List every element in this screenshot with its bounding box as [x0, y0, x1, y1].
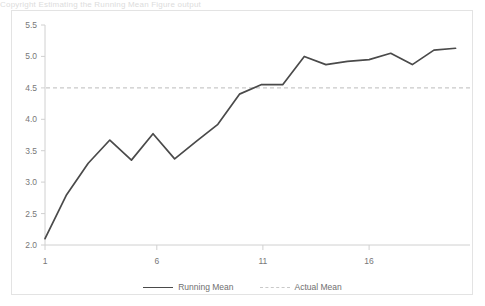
y-tick-label: 2.0 — [15, 240, 37, 250]
cropped-header-text: Copyright Estimating the Running Mean Fi… — [0, 0, 485, 9]
chart-frame — [11, 10, 473, 295]
y-tick-label: 2.5 — [15, 209, 37, 219]
y-tick-label: 3.5 — [15, 146, 37, 156]
legend-entry-actual-mean[interactable]: Actual Mean — [260, 282, 342, 292]
x-tick-label: 6 — [145, 256, 169, 266]
running-mean-swatch-icon — [143, 287, 173, 288]
legend-label-actual-mean: Actual Mean — [295, 282, 342, 292]
y-tick-label: 3.0 — [15, 177, 37, 187]
legend-label-running-mean: Running Mean — [178, 282, 233, 292]
y-tick-label: 4.0 — [15, 114, 37, 124]
x-tick-label: 16 — [357, 256, 381, 266]
y-tick-label: 5.0 — [15, 51, 37, 61]
chart-legend: Running Mean Actual Mean — [0, 278, 485, 296]
y-tick-label: 4.5 — [15, 83, 37, 93]
actual-mean-swatch-icon — [260, 287, 290, 288]
x-tick-label: 11 — [251, 256, 275, 266]
y-tick-label: 5.5 — [15, 20, 37, 30]
legend-entry-running-mean[interactable]: Running Mean — [143, 282, 233, 292]
x-tick-label: 1 — [33, 256, 57, 266]
